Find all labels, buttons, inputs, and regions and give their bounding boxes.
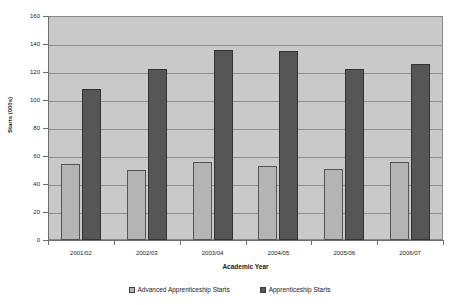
bar (279, 51, 298, 240)
bar-chart: 020406080100120140160 Starts (000s) 2001… (0, 0, 459, 305)
bar (214, 50, 233, 240)
y-axis-tick (43, 156, 48, 157)
legend-label: Apprenticeship Starts (269, 286, 331, 293)
x-axis-tick-label: 2001/02 (48, 249, 114, 257)
y-axis-tick-label: 140 (8, 41, 40, 48)
x-axis-tick (180, 241, 181, 245)
bar (411, 64, 430, 240)
bar (390, 162, 409, 240)
bar (345, 69, 364, 240)
gridline (49, 73, 442, 74)
gridline (49, 129, 442, 130)
y-axis-tick-label: 0 (8, 237, 40, 244)
bar (61, 164, 80, 240)
bar (82, 89, 101, 240)
x-axis-tick (48, 241, 49, 245)
y-axis-title: Starts (000s) (7, 85, 13, 145)
x-axis-tick-label: 2006/07 (377, 249, 443, 257)
legend-item[interactable]: Advanced Apprenticeship Starts (129, 286, 230, 293)
y-axis-tick-label: 160 (8, 13, 40, 20)
x-axis-tick-label: 2005/06 (311, 249, 377, 257)
legend-swatch-icon (260, 287, 266, 293)
gridline (49, 45, 442, 46)
y-axis-line (48, 16, 49, 241)
x-axis-tick (114, 241, 115, 245)
plot-area (48, 16, 443, 240)
bar (258, 166, 277, 240)
x-axis-tick-label: 2002/03 (114, 249, 180, 257)
bar (148, 69, 167, 240)
x-axis-tick-label: 2004/05 (245, 249, 311, 257)
y-axis-tick (43, 128, 48, 129)
y-axis-tick-label: 20 (8, 209, 40, 216)
x-axis-tick-label: 2003/04 (180, 249, 246, 257)
x-axis-tick (246, 241, 247, 245)
bar (127, 170, 146, 240)
y-axis-tick (43, 212, 48, 213)
legend-label: Advanced Apprenticeship Starts (138, 286, 230, 293)
y-axis-tick (43, 100, 48, 101)
y-axis-tick (43, 72, 48, 73)
legend-item[interactable]: Apprenticeship Starts (260, 286, 331, 293)
legend-swatch-icon (129, 287, 135, 293)
chart-legend: Advanced Apprenticeship StartsApprentice… (0, 286, 459, 293)
x-axis-tick (311, 241, 312, 245)
y-axis-tick-label: 40 (8, 181, 40, 188)
y-axis-tick-label: 60 (8, 153, 40, 160)
bar (324, 169, 343, 240)
gridline (49, 101, 442, 102)
x-axis-title: Academic Year (48, 263, 443, 270)
y-axis-tick-label: 120 (8, 69, 40, 76)
y-axis-tick (43, 44, 48, 45)
gridline (49, 213, 442, 214)
x-axis-tick (377, 241, 378, 245)
bar (193, 162, 212, 240)
gridline (49, 185, 442, 186)
y-axis-tick (43, 16, 48, 17)
y-axis-tick (43, 184, 48, 185)
gridline (49, 157, 442, 158)
x-axis-tick (443, 241, 444, 245)
